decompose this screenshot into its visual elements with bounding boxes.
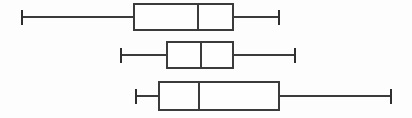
box-iqr	[134, 4, 233, 30]
boxplot-item	[22, 4, 279, 30]
boxplot-figure	[0, 0, 412, 118]
box-iqr	[167, 42, 233, 68]
boxplot-item	[121, 42, 295, 68]
boxplot-canvas	[0, 0, 412, 118]
boxplot-item	[136, 82, 391, 110]
box-iqr	[159, 82, 279, 110]
boxplot-series-group	[22, 4, 391, 110]
